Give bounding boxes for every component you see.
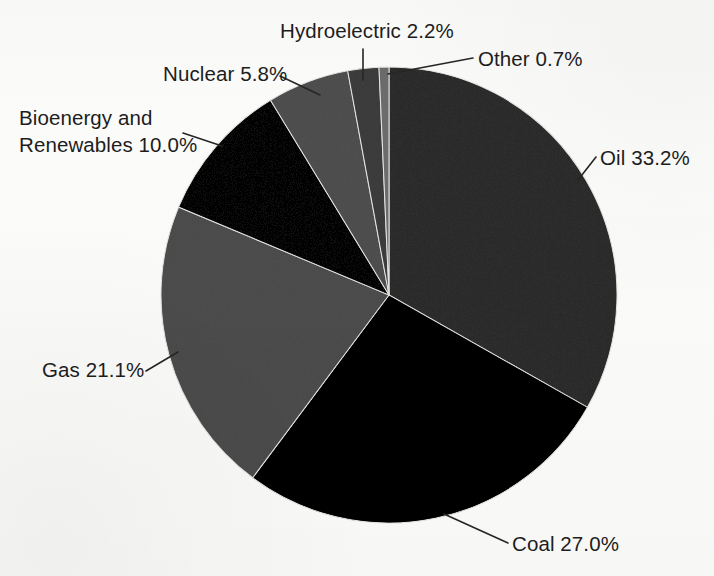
pie-chart-canvas <box>0 0 714 576</box>
slice-label-bioenergy-line2: Renewables 10.0% <box>19 133 197 156</box>
pie-slices <box>161 67 617 523</box>
leader-line-oil <box>578 157 596 180</box>
slice-label-coal: Coal 27.0% <box>512 530 619 557</box>
slice-label-other: Other 0.7% <box>478 45 583 72</box>
slice-label-gas: Gas 21.1% <box>42 356 144 383</box>
slice-label-hydroelectric: Hydroelectric 2.2% <box>280 17 454 44</box>
slice-label-bioenergy: Bioenergy andRenewables 10.0% <box>19 104 197 158</box>
slice-label-bioenergy-line1: Bioenergy and <box>19 106 153 129</box>
leader-line-coal <box>444 514 508 543</box>
slice-label-oil: Oil 33.2% <box>600 144 690 171</box>
pie-chart-figure: Hydroelectric 2.2% Other 0.7% Nuclear 5.… <box>0 0 714 576</box>
slice-label-nuclear: Nuclear 5.8% <box>163 60 287 87</box>
